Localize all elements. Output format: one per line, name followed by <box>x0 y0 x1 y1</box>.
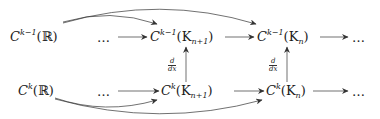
arrows-layer <box>0 0 380 119</box>
top-left-dots: … <box>97 30 111 45</box>
vertical-label-mid: d dx <box>168 58 176 73</box>
top-right-dots: … <box>352 30 366 45</box>
bottom-left-dots: … <box>97 84 111 99</box>
bottom-curve-to-mid <box>55 98 157 107</box>
vertical-label-right: d dx <box>269 58 277 73</box>
node-bottom-right: Ck(Kn) <box>266 84 306 97</box>
node-top-mid: Ck−1(Kn+1) <box>150 30 213 43</box>
top-curve-to-right <box>63 9 256 24</box>
top-curve-to-mid <box>63 15 157 24</box>
node-bottom-source: Ck(ℝ) <box>18 84 54 97</box>
node-top-right: Ck−1(Kn) <box>257 30 309 43</box>
node-top-source: Ck−1(ℝ) <box>10 30 58 43</box>
node-bottom-mid: Ck(Kn+1) <box>161 84 213 97</box>
bottom-right-dots: … <box>352 84 366 99</box>
bottom-curve-to-right <box>55 99 262 114</box>
